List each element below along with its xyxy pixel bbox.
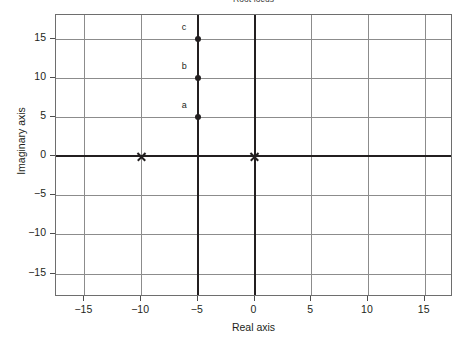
- page-title: Root locus: [55, 0, 452, 4]
- locus-point-marker: [195, 75, 201, 81]
- x-axis-tick-label: 15: [404, 303, 444, 315]
- x-axis-tick: [424, 296, 425, 301]
- y-axis-tick-label: −5: [8, 187, 46, 199]
- x-axis-tick-label: −5: [177, 303, 217, 315]
- x-axis-tick: [197, 296, 198, 301]
- y-axis-tick-label: 5: [8, 109, 46, 121]
- root-locus-figure: Root locus Imaginary axis Real axis −15−…: [0, 0, 465, 340]
- locus-point-label: a: [182, 100, 187, 110]
- locus-point-label: c: [182, 22, 187, 32]
- pole-marker-x-icon: [136, 151, 147, 162]
- y-axis-tick-label: 15: [8, 31, 46, 43]
- y-axis-tick-label: −15: [8, 266, 46, 278]
- x-axis-tick: [140, 296, 141, 301]
- locus-branch-vertical: [197, 15, 199, 295]
- x-axis-tick-label: 5: [290, 303, 330, 315]
- x-axis-tick: [367, 296, 368, 301]
- locus-point-marker: [195, 114, 201, 120]
- locus-point-marker: [195, 36, 201, 42]
- y-axis-tick-label: 0: [8, 148, 46, 160]
- locus-point-label: b: [182, 61, 187, 71]
- x-axis-tick-label: 10: [347, 303, 387, 315]
- x-axis-tick: [310, 296, 311, 301]
- y-axis-tick-label: 10: [8, 70, 46, 82]
- pole-marker-x-icon: [249, 151, 260, 162]
- x-axis-tick-label: −15: [63, 303, 103, 315]
- x-axis-tick-label: 0: [234, 303, 274, 315]
- plot-area: abc: [55, 14, 452, 296]
- x-axis-label: Real axis: [55, 321, 452, 333]
- y-axis-tick-label: −10: [8, 226, 46, 238]
- x-axis-tick-label: −10: [120, 303, 160, 315]
- x-axis-tick: [83, 296, 84, 301]
- x-axis-tick: [254, 296, 255, 301]
